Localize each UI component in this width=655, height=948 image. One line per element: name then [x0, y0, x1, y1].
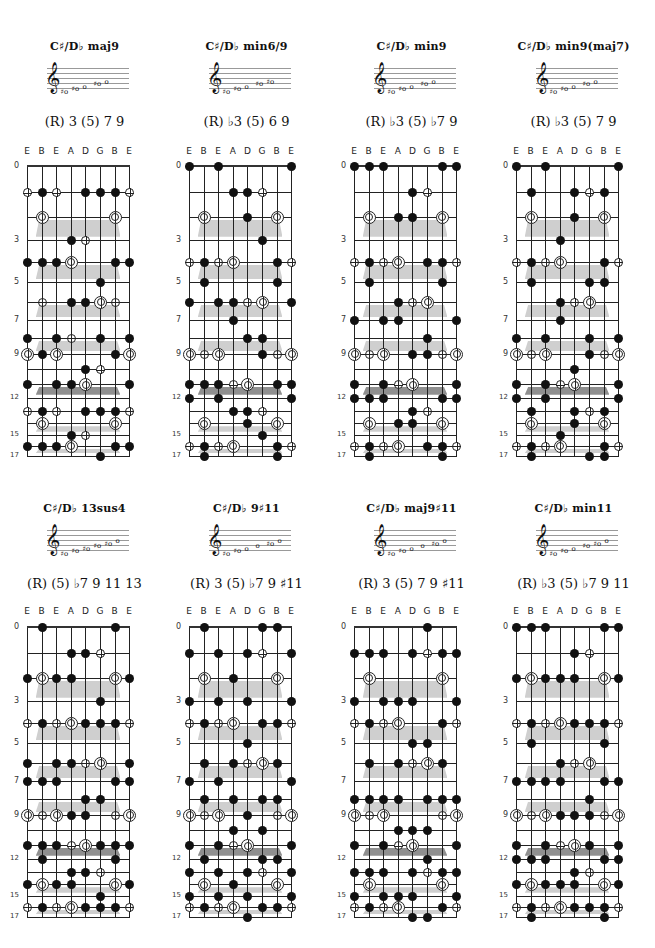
fret-number: 5: [494, 738, 508, 747]
fret-inlay-band: [198, 802, 283, 812]
note-dot-filled-icon: [273, 623, 282, 632]
staff-note: ♯o: [105, 540, 113, 548]
note-dot-open-icon: [287, 903, 296, 912]
root-ring-icon: [392, 901, 405, 914]
fret-line: [354, 743, 457, 744]
note-dot-open-icon: [585, 649, 594, 658]
staff-note: o: [421, 542, 425, 550]
fret-line: [354, 859, 457, 860]
note-dot-filled-icon: [81, 795, 90, 804]
string-name-label: A: [393, 606, 403, 616]
fret-number: 17: [494, 912, 508, 920]
fret-inlay-band: [525, 726, 610, 741]
string-line: [204, 627, 205, 917]
root-ring-icon: [450, 809, 463, 822]
fret-inlay-band: [36, 887, 121, 893]
note-dot-filled-icon: [258, 623, 267, 632]
string-line: [516, 627, 517, 917]
note-dot-filled-icon: [38, 777, 47, 786]
root-ring-icon: [36, 878, 49, 891]
string-name-label: A: [228, 606, 238, 616]
staff-note: ♯o: [83, 545, 91, 553]
note-dot-filled-icon: [541, 777, 550, 786]
note-dot-filled-icon: [600, 855, 609, 864]
note-dot-filled-icon: [394, 697, 403, 706]
note-dot-filled-icon: [287, 841, 296, 850]
string-names: EBEADGBE: [492, 606, 655, 618]
note-dot-filled-icon: [600, 739, 609, 748]
fret-inlay-band: [525, 802, 610, 812]
chord-formula: (R) ♭3 (5) ♭7 9 11: [492, 576, 655, 591]
note-dot-filled-icon: [614, 880, 623, 889]
note-dot-open-icon: [200, 811, 209, 820]
note-dot-filled-icon: [585, 841, 594, 850]
fret-inlay-band: [363, 726, 448, 741]
fret-line: [27, 872, 130, 873]
note-dot-filled-icon: [200, 759, 209, 768]
fret-inlay-band: [363, 681, 448, 698]
string-name-label: B: [599, 606, 609, 616]
fret-inlay-band: [198, 726, 283, 741]
note-dot-filled-icon: [423, 826, 432, 835]
note-dot-filled-icon: [438, 868, 447, 877]
music-staff: 𝄞♯o♯ooo♯oo: [205, 530, 291, 556]
note-dot-filled-icon: [556, 759, 565, 768]
note-dot-filled-icon: [452, 697, 461, 706]
staff-note: o: [116, 537, 120, 545]
note-dot-filled-icon: [452, 892, 461, 901]
note-dot-filled-icon: [38, 841, 47, 850]
note-dot-filled-icon: [570, 674, 579, 683]
note-dot-open-icon: [185, 903, 194, 912]
root-ring-icon: [227, 901, 240, 914]
note-dot-open-icon: [96, 649, 105, 658]
fret-number: 17: [5, 912, 19, 920]
chord-formula: (R) (5) ♭7 9 11 13: [3, 576, 166, 591]
fret-inlay-band: [36, 802, 121, 812]
fret-number: 9: [494, 810, 508, 819]
root-ring-icon: [183, 809, 196, 822]
nut: [354, 626, 457, 628]
note-dot-filled-icon: [200, 623, 209, 632]
fret-line: [189, 653, 292, 654]
root-ring-icon: [363, 672, 376, 685]
fret-number: 0: [494, 622, 508, 631]
note-dot-filled-icon: [527, 777, 536, 786]
note-dot-filled-icon: [527, 855, 536, 864]
string-name-label: E: [349, 606, 359, 616]
root-ring-icon: [65, 901, 78, 914]
note-dot-filled-icon: [243, 649, 252, 658]
string-name-label: D: [407, 606, 417, 616]
staff-note: o: [410, 545, 414, 553]
note-dot-filled-icon: [438, 795, 447, 804]
note-dot-filled-icon: [96, 892, 105, 901]
note-dot-open-icon: [379, 719, 388, 728]
string-line: [398, 627, 399, 917]
note-dot-filled-icon: [365, 649, 374, 658]
root-ring-icon: [65, 717, 78, 730]
string-name-label: E: [184, 606, 194, 616]
note-dot-filled-icon: [185, 777, 194, 786]
note-dot-filled-icon: [229, 674, 238, 683]
string-line: [560, 627, 561, 917]
string-name-label: E: [51, 606, 61, 616]
fret-inlay-band: [36, 726, 121, 741]
note-dot-filled-icon: [81, 649, 90, 658]
note-dot-filled-icon: [350, 697, 359, 706]
string-name-label: E: [213, 606, 223, 616]
note-dot-open-icon: [52, 719, 61, 728]
fret-inlay-band: [198, 887, 283, 893]
music-staff: 𝄞♯o♯ooo♯oo: [370, 530, 456, 556]
fret-line: [27, 799, 130, 800]
fret-number: 12: [167, 854, 181, 862]
note-dot-filled-icon: [585, 795, 594, 804]
note-dot-filled-icon: [258, 855, 267, 864]
note-dot-filled-icon: [111, 903, 120, 912]
note-dot-filled-icon: [541, 623, 550, 632]
root-ring-icon: [436, 672, 449, 685]
note-dot-filled-icon: [125, 674, 134, 683]
note-dot-filled-icon: [585, 903, 594, 912]
note-dot-open-icon: [585, 868, 594, 877]
fret-number: 3: [494, 696, 508, 705]
note-dot-filled-icon: [512, 855, 521, 864]
note-dot-filled-icon: [243, 811, 252, 820]
